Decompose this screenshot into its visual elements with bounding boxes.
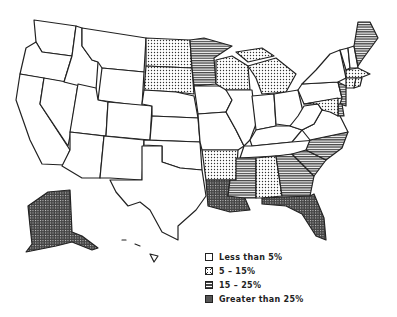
swatch-dots-icon	[205, 267, 213, 275]
state-hi[interactable]	[122, 240, 158, 262]
legend-label: 15 – 25%	[219, 281, 261, 290]
legend-item-greater-than-25: Greater than 25%	[205, 292, 304, 306]
state-me[interactable]	[354, 22, 378, 66]
state-ri[interactable]	[354, 78, 362, 88]
legend-label: Greater than 25%	[219, 295, 304, 304]
swatch-stripes-icon	[205, 281, 213, 289]
state-ny[interactable]	[302, 50, 346, 84]
state-ks[interactable]	[150, 116, 200, 142]
state-ak[interactable]	[26, 190, 98, 252]
state-nm[interactable]	[100, 136, 144, 180]
state-ma[interactable]	[346, 68, 370, 78]
us-choropleth-map	[0, 0, 397, 317]
state-ar[interactable]	[202, 150, 238, 180]
states-layer	[16, 20, 378, 262]
state-sd[interactable]	[144, 66, 194, 94]
state-nd[interactable]	[146, 38, 192, 68]
legend-label: 5 – 15%	[219, 267, 255, 276]
legend-item-less-than-5: Less than 5%	[205, 250, 304, 264]
state-de[interactable]	[338, 104, 344, 116]
state-wi[interactable]	[216, 56, 250, 90]
legend-label: Less than 5%	[219, 253, 282, 262]
legend-item-5-15: 5 – 15%	[205, 264, 304, 278]
state-wy[interactable]	[98, 68, 144, 106]
state-in[interactable]	[252, 94, 276, 130]
legend-item-15-25: 15 – 25%	[205, 278, 304, 292]
swatch-dense-icon	[205, 295, 213, 303]
state-co[interactable]	[106, 102, 152, 140]
legend: Less than 5% 5 – 15% 15 – 25% Greater th…	[205, 250, 304, 306]
swatch-white-icon	[205, 253, 213, 261]
state-fl[interactable]	[262, 194, 326, 240]
